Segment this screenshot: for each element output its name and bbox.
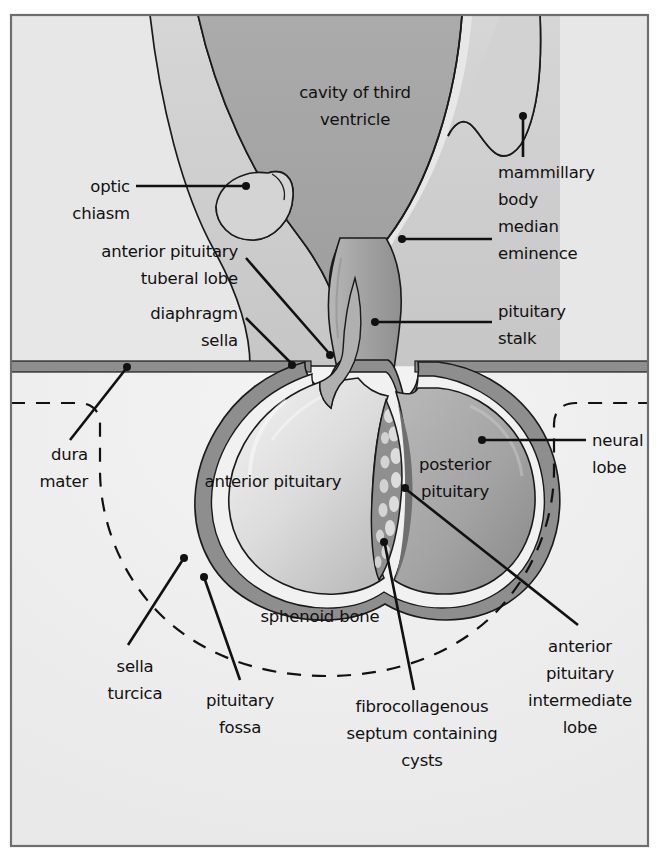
leader-dot-dura-mater [123,363,131,371]
label-sphenoid-bone: sphenoid bone [260,607,379,626]
label-anterior-pituitary: anterior pituitary [205,472,342,491]
label-line: pituitary [421,482,489,501]
label-line: body [498,190,538,209]
label-line: chiasm [72,204,130,223]
leader-dot-optic-chiasm [242,182,250,190]
label-line: mater [39,472,88,491]
label-line: eminence [498,244,578,263]
leader-dot-median-eminence [398,235,406,243]
label-line: sella [201,331,238,350]
label-line: fossa [219,718,261,737]
label-line: pituitary [206,691,274,710]
label-line: cavity of third [299,83,411,102]
label-line: turcica [108,684,163,703]
label-line: sella [116,657,153,676]
label-line: lobe [592,458,627,477]
leader-dot-sella-turcica [180,554,188,562]
cyst [381,432,389,444]
leader-dot-neural-lobe [478,436,486,444]
label-line: anterior [548,637,612,656]
label-line: septum containing [347,724,498,743]
label-line: fibrocollagenous [356,697,489,716]
leader-dot-fibrocollagenous-septum [380,538,388,546]
cyst [385,520,395,536]
cyst [380,479,389,493]
label-line: posterior [419,455,492,474]
cyst [389,496,399,512]
leader-dot-mammillary-body [519,112,527,120]
diaphragma-sellae-left [11,361,311,372]
anatomical-diagram-figure: cavity of third ventricle mammillary bod… [0,0,663,861]
label-line: tuberal lobe [141,269,238,288]
leader-dot-anterior-pituitary-intermediate-lobe [401,484,409,492]
leader-dot-diaphragm-sella [288,361,296,369]
label-line: median [498,217,559,236]
cyst [375,556,382,568]
label-line: pituitary [498,302,566,321]
label-line: stalk [498,329,537,348]
label-line: neural [592,431,643,450]
cyst [381,456,390,469]
label-line: pituitary [546,664,614,683]
pituitary-diagram-svg: cavity of third ventricle mammillary bod… [0,0,663,861]
label-line: anterior pituitary [101,242,238,261]
label-line: intermediate [528,691,632,710]
cyst [391,472,401,488]
cyst [379,503,388,517]
label-line: anterior pituitary [205,472,342,491]
label-line: dura [51,445,88,464]
label-line: sphenoid bone [260,607,379,626]
label-line: ventricle [320,110,390,129]
label-line: cysts [401,751,443,770]
label-line: lobe [563,718,598,737]
leader-dot-pituitary-fossa [200,573,208,581]
label-line: optic [90,177,130,196]
leader-dot-anterior-pituitary-tuberal-lobe [326,351,334,359]
label-line: diaphragm [150,304,238,323]
leader-dot-pituitary-stalk [371,318,379,326]
label-line: mammillary [498,163,595,182]
